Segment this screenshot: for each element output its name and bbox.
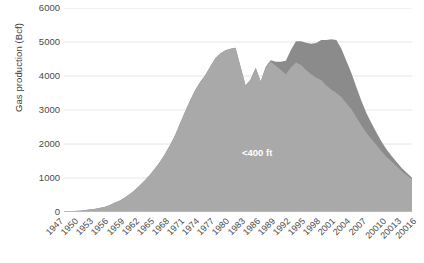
y-tick-label: 6000: [20, 3, 60, 13]
y-tick-label: 3000: [20, 105, 60, 115]
y-tick-label: 1000: [20, 173, 60, 183]
plot-area: <400 ft >400 ft: [64, 8, 412, 212]
area-series-group: [64, 39, 412, 212]
y-tick-label: 5000: [20, 37, 60, 47]
area-series: [64, 48, 412, 212]
gas-production-area-chart: Gas production (Bcf) 0100020003000400050…: [0, 0, 424, 263]
plot-svg: [64, 8, 412, 212]
y-tick-label: 2000: [20, 139, 60, 149]
bottom-margin: [0, 252, 424, 263]
y-tick-label: 0: [20, 207, 60, 217]
y-tick-label: 4000: [20, 71, 60, 81]
